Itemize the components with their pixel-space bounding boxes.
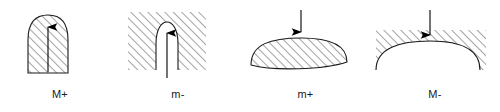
figure-caption: m- [118, 88, 238, 100]
figure-caption: m+ [243, 88, 368, 100]
figure-caption: M- [370, 88, 500, 100]
shape-outline [251, 38, 347, 69]
figure-panel-m-minus-upper: M- [370, 0, 500, 112]
figure-panel-m-plus-lower: m+ [243, 0, 368, 112]
figure-caption: M+ [0, 88, 120, 100]
figure-panel-m-minus-lower: m- [118, 0, 238, 112]
figure-panel-m-plus: M+ [0, 0, 120, 112]
figure-strip: M+ m- [0, 0, 500, 112]
